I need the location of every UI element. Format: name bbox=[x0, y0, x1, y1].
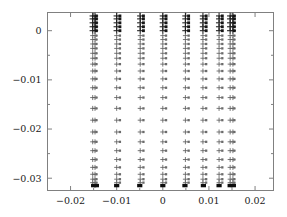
dot-marker bbox=[205, 119, 207, 121]
dot-marker bbox=[142, 158, 144, 160]
dot-marker bbox=[142, 166, 144, 168]
dot-marker bbox=[187, 141, 189, 143]
dot-marker bbox=[95, 150, 97, 152]
dot-marker bbox=[165, 158, 167, 160]
dot-marker bbox=[142, 70, 144, 72]
dot-marker bbox=[142, 87, 144, 89]
dot-marker bbox=[165, 131, 167, 133]
dot-marker bbox=[142, 15, 145, 18]
dot-marker bbox=[142, 96, 144, 98]
dot-marker bbox=[118, 15, 121, 18]
dot-marker bbox=[187, 38, 189, 40]
filled-square-marker bbox=[216, 184, 221, 187]
dot-marker bbox=[221, 52, 223, 54]
dot-marker bbox=[233, 21, 236, 24]
dot-marker bbox=[165, 43, 167, 45]
filled-square-marker bbox=[201, 184, 206, 187]
dot-marker bbox=[233, 181, 235, 183]
dot-marker bbox=[205, 25, 208, 28]
dot-marker bbox=[187, 34, 189, 36]
dot-marker bbox=[233, 38, 235, 40]
dot-marker bbox=[95, 34, 97, 36]
dot-marker bbox=[119, 166, 121, 168]
dot-marker bbox=[221, 29, 224, 32]
dot-marker bbox=[165, 63, 167, 65]
dot-marker bbox=[221, 15, 224, 18]
dot-marker bbox=[95, 107, 97, 109]
dot-marker bbox=[165, 181, 167, 183]
dot-marker bbox=[95, 141, 97, 143]
dot-marker bbox=[221, 21, 224, 24]
dot-marker bbox=[205, 29, 208, 32]
dot-marker bbox=[221, 178, 223, 180]
dot-marker bbox=[119, 119, 121, 121]
dot-marker bbox=[233, 57, 235, 59]
dot-marker bbox=[187, 70, 189, 72]
plot-canvas: −0.02−0.0100.010.02 0−0.01−0.02−0.03 bbox=[0, 0, 287, 217]
dot-marker bbox=[233, 96, 235, 98]
dot-marker bbox=[165, 38, 167, 40]
filled-square-marker bbox=[94, 184, 99, 187]
dot-marker bbox=[205, 47, 207, 49]
dot-marker bbox=[95, 29, 98, 32]
dot-marker bbox=[221, 43, 223, 45]
dot-marker bbox=[187, 43, 189, 45]
dot-marker bbox=[187, 78, 189, 80]
dot-marker bbox=[142, 47, 144, 49]
dot-marker bbox=[142, 141, 144, 143]
dot-marker bbox=[233, 131, 235, 133]
dot-marker bbox=[187, 87, 189, 89]
dot-marker bbox=[187, 131, 189, 133]
dot-marker bbox=[119, 34, 121, 36]
dot-marker bbox=[142, 29, 145, 32]
screenshot-root: −0.02−0.0100.010.02 0−0.01−0.02−0.03 bbox=[0, 0, 287, 217]
dot-marker bbox=[205, 166, 207, 168]
dot-marker bbox=[95, 15, 98, 18]
dot-marker bbox=[233, 78, 235, 80]
dot-marker bbox=[119, 63, 121, 65]
dot-marker bbox=[187, 173, 189, 175]
dot-marker bbox=[221, 150, 223, 152]
dot-marker bbox=[165, 107, 167, 109]
dot-marker bbox=[165, 34, 167, 36]
x-tick-label: 0.02 bbox=[244, 195, 265, 206]
dot-marker bbox=[165, 119, 167, 121]
dot-marker bbox=[187, 29, 190, 32]
dot-marker bbox=[205, 78, 207, 80]
dot-marker bbox=[165, 141, 167, 143]
dot-marker bbox=[221, 181, 223, 183]
dot-marker bbox=[165, 52, 167, 54]
dot-marker bbox=[205, 131, 207, 133]
dot-marker bbox=[95, 25, 98, 28]
dot-marker bbox=[95, 119, 97, 121]
dot-marker bbox=[95, 166, 97, 168]
y-tick-label: 0 bbox=[35, 25, 41, 36]
dot-marker bbox=[187, 57, 189, 59]
dot-marker bbox=[119, 96, 121, 98]
dot-marker bbox=[187, 178, 189, 180]
dot-marker bbox=[233, 119, 235, 121]
dot-marker bbox=[221, 131, 223, 133]
dot-marker bbox=[205, 57, 207, 59]
dot-marker bbox=[187, 25, 190, 28]
dot-marker bbox=[187, 107, 189, 109]
dot-marker bbox=[221, 119, 223, 121]
dot-marker bbox=[118, 17, 121, 20]
dot-marker bbox=[233, 150, 235, 152]
y-tick-label: −0.01 bbox=[12, 74, 41, 85]
dot-marker bbox=[165, 29, 168, 32]
dot-marker bbox=[205, 87, 207, 89]
filled-square-marker bbox=[182, 184, 187, 187]
dot-marker bbox=[95, 78, 97, 80]
dot-marker bbox=[95, 131, 97, 133]
dot-marker bbox=[95, 96, 97, 98]
dot-marker bbox=[95, 173, 97, 175]
scatter-plot-figure: −0.02−0.0100.010.02 0−0.01−0.02−0.03 bbox=[0, 0, 287, 217]
filled-square-marker bbox=[160, 184, 165, 187]
dot-marker bbox=[165, 78, 167, 80]
dot-marker bbox=[95, 63, 97, 65]
dot-marker bbox=[205, 43, 207, 45]
dot-marker bbox=[119, 70, 121, 72]
dot-marker bbox=[221, 173, 223, 175]
dot-marker bbox=[95, 178, 97, 180]
